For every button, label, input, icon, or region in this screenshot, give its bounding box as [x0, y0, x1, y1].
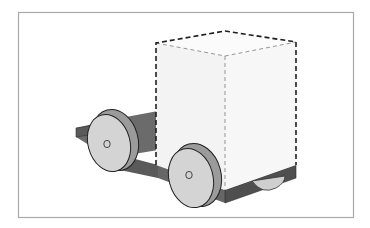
- cart-illustration: [0, 0, 370, 228]
- cart-diagram: Isometric illustration of a toy cart: a …: [0, 0, 370, 228]
